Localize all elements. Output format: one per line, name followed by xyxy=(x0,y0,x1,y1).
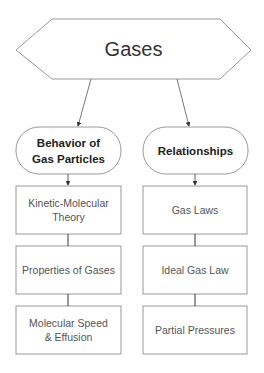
relationships-label: Relationships xyxy=(143,127,248,174)
kmt-line2: Theory xyxy=(52,210,85,224)
speed-line2: & Effusion xyxy=(45,330,93,344)
kmt-line1: Kinetic-Molecular xyxy=(28,196,109,210)
properties-label: Properties of Gases xyxy=(16,246,121,294)
gaslaws-label: Gas Laws xyxy=(143,186,247,234)
behavior-label: Behavior of Gas Particles xyxy=(16,127,121,174)
kmt-label: Kinetic-Molecular Theory xyxy=(16,186,121,234)
root-label: Gases xyxy=(16,19,251,79)
behavior-label-line2: Gas Particles xyxy=(32,151,105,167)
behavior-label-line1: Behavior of xyxy=(37,135,100,151)
speed-label: Molecular Speed & Effusion xyxy=(16,306,121,354)
speed-line1: Molecular Speed xyxy=(29,316,108,330)
partial-label: Partial Pressures xyxy=(143,306,247,354)
arrow-root-to-behavior xyxy=(78,79,91,126)
arrow-root-to-relationships xyxy=(177,79,189,126)
ideal-label: Ideal Gas Law xyxy=(143,246,247,294)
